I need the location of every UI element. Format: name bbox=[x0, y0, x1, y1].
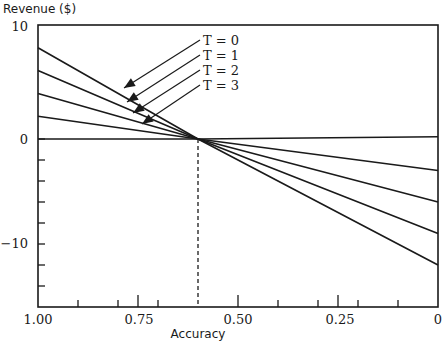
series-line bbox=[38, 116, 438, 170]
y-tick-label-10: 10 bbox=[11, 19, 28, 34]
y-tick-label-neg10: −10 bbox=[1, 236, 28, 251]
x-tick-label-0.50: 0.50 bbox=[224, 312, 253, 327]
legend-label-t3: T = 3 bbox=[203, 78, 239, 93]
x-tick-label-0.75: 0.75 bbox=[125, 312, 154, 327]
annotation-arrows bbox=[124, 40, 200, 124]
legend-label-t1: T = 1 bbox=[203, 48, 239, 63]
arrowhead-icon bbox=[133, 103, 145, 113]
series-line bbox=[38, 71, 438, 234]
chart-area: 10 0 −10 1.00 0.75 0.50 0.25 0 Accuracy … bbox=[0, 0, 445, 342]
x-tick-label-0: 0 bbox=[434, 312, 442, 327]
x-tick-label-1.00: 1.00 bbox=[24, 312, 53, 327]
y-axis-ticks bbox=[38, 139, 45, 286]
x-axis-ticks bbox=[78, 295, 398, 307]
series-line bbox=[38, 93, 438, 202]
x-axis-title: Accuracy bbox=[171, 327, 226, 341]
x-tick-label-0.25: 0.25 bbox=[326, 312, 355, 327]
series-line bbox=[38, 137, 438, 139]
legend-label-t0: T = 0 bbox=[203, 33, 239, 48]
y-tick-label-0: 0 bbox=[20, 132, 28, 147]
arrowhead-icon bbox=[127, 92, 139, 102]
arrowhead-icon bbox=[124, 78, 136, 88]
legend-label-t2: T = 2 bbox=[203, 63, 239, 78]
